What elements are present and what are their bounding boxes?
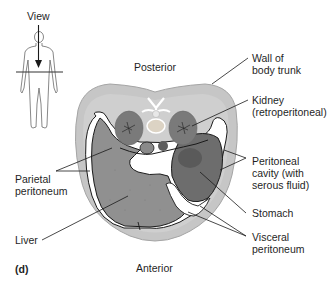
label-wall-of-body-trunk: Wall of body trunk xyxy=(252,52,301,76)
aorta xyxy=(158,141,168,151)
label-kidney: Kidney (retroperitoneal) xyxy=(252,94,327,118)
label-liver: Liver xyxy=(15,234,38,246)
label-peritoneal-cavity: Peritoneal cavity (with serous fluid) xyxy=(252,155,309,191)
view-arrow-icon xyxy=(35,25,42,68)
kidney-right xyxy=(169,111,197,145)
anterior-label: Anterior xyxy=(136,262,173,274)
stomach-center xyxy=(178,148,202,168)
inferior-vena-cava xyxy=(140,142,154,154)
panel-letter: (d) xyxy=(15,263,28,275)
view-label: View xyxy=(27,10,50,22)
kidney-left xyxy=(115,111,143,145)
label-visceral-peritoneum: Visceral peritoneum xyxy=(252,231,305,255)
label-parietal-peritoneum: Parietal peritoneum xyxy=(15,173,68,197)
label-stomach: Stomach xyxy=(252,207,293,219)
posterior-label: Posterior xyxy=(134,61,176,73)
